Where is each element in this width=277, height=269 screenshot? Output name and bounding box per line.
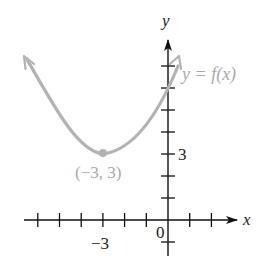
x-tick-label-minus3: −3 [91,234,109,253]
vertex-point [99,149,107,157]
curve-right-arrow-icon [170,56,181,69]
parabola-curve [27,59,178,154]
y-tick-label-3: 3 [178,145,187,164]
y-axis-label: y [160,11,170,30]
parabola-graph: y x 0 −3 3 y = f(x) (−3, 3) [0,0,277,269]
function-label: y = f(x) [180,64,236,85]
x-axis-label: x [242,210,251,229]
origin-label: 0 [156,223,165,242]
vertex-label: (−3, 3) [75,163,121,182]
